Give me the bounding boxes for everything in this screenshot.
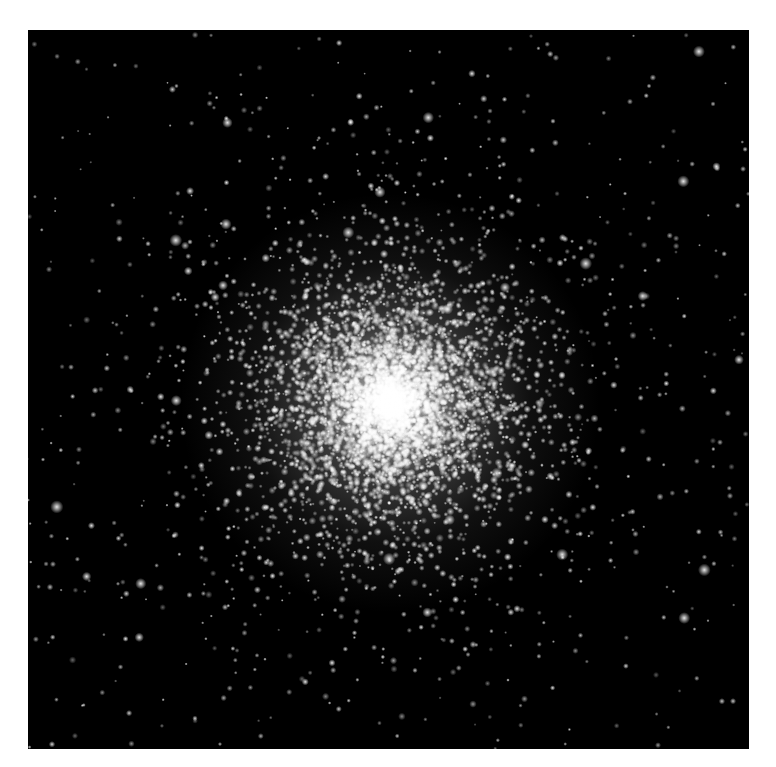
star-cluster-image [28, 30, 749, 749]
star-field [28, 30, 749, 749]
